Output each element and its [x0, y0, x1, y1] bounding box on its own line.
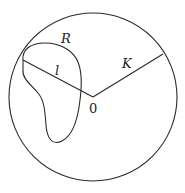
region-r-curve [23, 43, 81, 143]
label-l: l [55, 63, 59, 78]
label-k: K [121, 56, 133, 71]
label-center: 0 [89, 101, 97, 116]
diagram-figure: R l K 0 [0, 0, 185, 193]
label-r: R [60, 31, 71, 46]
